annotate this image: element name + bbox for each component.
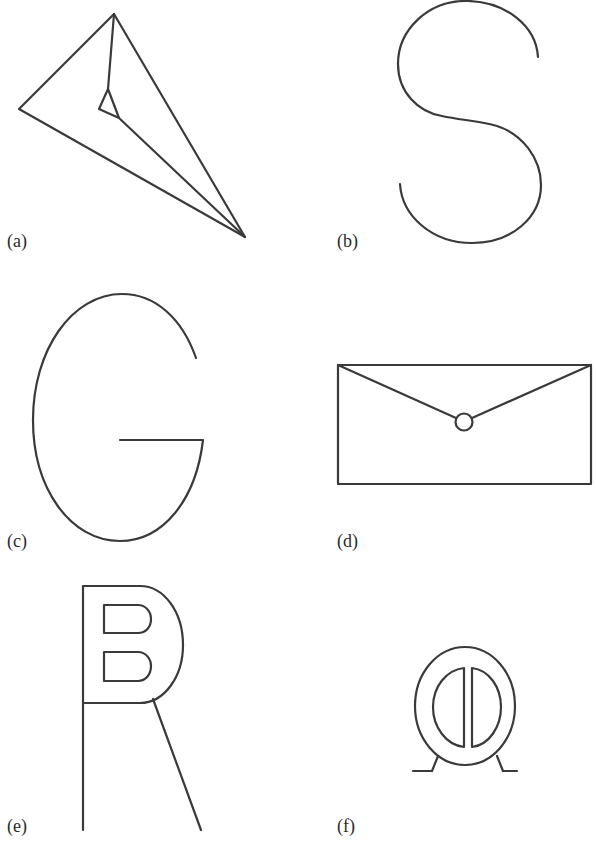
figure-six-line-drawings: (a) (b) (c) (d) (e) (f): [0, 0, 596, 854]
s-curve: [398, 1, 541, 243]
right-half-disc: [472, 668, 501, 747]
upper-counter: [104, 605, 151, 633]
left-half-disc: [433, 668, 464, 747]
panel-d-envelope: (d): [337, 365, 591, 552]
envelope-flap: [338, 365, 591, 418]
panel-a-paper-airplane: (a): [7, 14, 245, 252]
envelope-seal-icon: [456, 414, 473, 431]
g-outline: [33, 294, 203, 541]
right-foot: [497, 756, 517, 771]
panel-d-label: (d): [337, 531, 358, 552]
left-foot: [413, 756, 438, 771]
airplane-fold-line: [99, 14, 245, 237]
panel-c-label: (c): [7, 531, 27, 552]
panel-a-label: (a): [7, 231, 27, 252]
panel-e-letter-r: (e): [7, 586, 201, 837]
panel-c-letter-g: (c): [7, 294, 203, 552]
r-stem-and-bowl: [83, 586, 183, 830]
r-leg: [153, 699, 201, 830]
lower-counter: [104, 652, 151, 681]
panel-b-label: (b): [337, 231, 358, 252]
panel-e-label: (e): [7, 816, 27, 837]
panel-f-label: (f): [337, 816, 355, 837]
panel-f-circular-object: (f): [337, 647, 517, 837]
panel-b-letter-s: (b): [337, 1, 541, 252]
